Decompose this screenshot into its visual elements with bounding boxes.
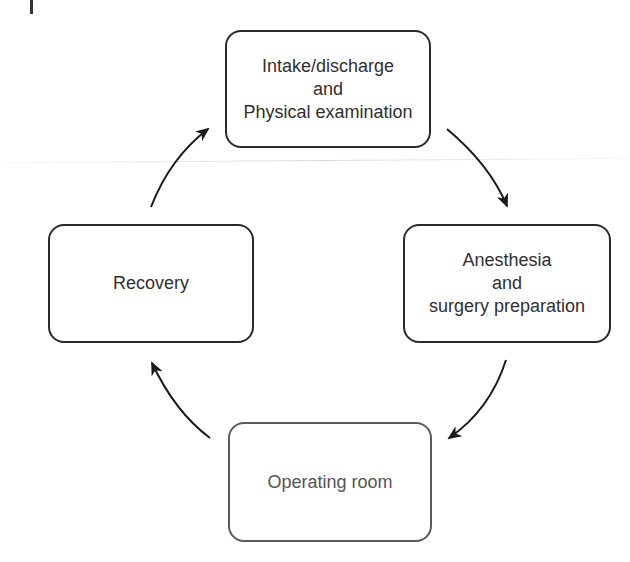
arrow-anesthesia-to-operating (449, 360, 506, 438)
step-intake-physical-exam: Intake/discharge and Physical examinatio… (225, 30, 431, 148)
step-recovery: Recovery (48, 224, 254, 343)
step-anesthesia-preparation: Anesthesia and surgery preparation (403, 224, 611, 343)
step-operating-room: Operating room (228, 422, 432, 542)
step-recovery-label: Recovery (113, 272, 189, 295)
arrow-recovery-to-intake (151, 129, 208, 207)
step-anesthesia-label: Anesthesia and surgery preparation (429, 249, 585, 318)
arrow-operating-to-recovery (152, 363, 210, 438)
arrow-intake-to-anesthesia (447, 129, 507, 206)
step-intake-label: Intake/discharge and Physical examinatio… (243, 55, 412, 124)
step-operating-label: Operating room (267, 471, 392, 494)
